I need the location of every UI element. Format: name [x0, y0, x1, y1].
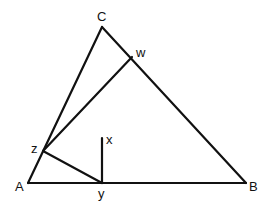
triangle-diagram: C w z x A y B: [0, 0, 272, 209]
labels: C w z x A y B: [15, 9, 258, 201]
segment-zy: [43, 151, 102, 183]
segment-zw: [43, 57, 132, 151]
label-y: y: [98, 186, 105, 201]
label-A: A: [15, 179, 24, 194]
label-x: x: [106, 132, 113, 147]
segment-CA: [28, 27, 102, 183]
label-w: w: [135, 45, 146, 60]
label-z: z: [31, 141, 38, 156]
label-B: B: [249, 179, 258, 194]
segment-BC: [102, 27, 246, 183]
label-C: C: [97, 9, 106, 24]
